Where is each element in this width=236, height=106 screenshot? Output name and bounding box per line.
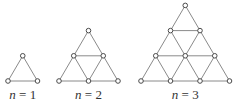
figure-canvas: n = 1n = 2n = 3 [0, 0, 236, 106]
graph-3-edge [171, 56, 186, 81]
graph-1-edge [8, 56, 23, 81]
graph-3-edge [141, 56, 156, 81]
graph-3-edge [200, 31, 215, 56]
graph-2-label: n = 2 [75, 87, 102, 102]
graph-2-vertex [86, 79, 91, 84]
graph-2-edge [74, 56, 89, 81]
graph-3-edge [156, 31, 171, 56]
graph-2-vertex [71, 54, 76, 59]
graph-1-vertex [35, 79, 40, 84]
graph-3-edge [185, 5, 200, 30]
graph-3-vertex [227, 79, 232, 84]
graph-3-vertex [139, 79, 144, 84]
graph-2-edge [89, 56, 104, 81]
graph-3-edge [156, 56, 171, 81]
graph-3-label: n = 3 [172, 87, 199, 102]
graph-2-edge [59, 56, 74, 81]
triangular-graphs-figure: n = 1n = 2n = 3 [0, 0, 236, 106]
graph-3-edge [171, 31, 186, 56]
graph-3-vertex [198, 28, 203, 33]
graph-3-vertex [183, 54, 188, 59]
graph-3-vertex [168, 28, 173, 33]
graph-3-edge [215, 56, 230, 81]
graph-3-edge [185, 31, 200, 56]
graph-3-edge [171, 5, 186, 30]
graph-2-edge [103, 56, 118, 81]
graph-1-vertex [6, 79, 11, 84]
graph-3-vertex [183, 3, 188, 8]
graph-3-vertex [198, 79, 203, 84]
graph-3-vertex [168, 79, 173, 84]
graph-1-label: n = 1 [9, 87, 36, 102]
graph-1-edge [23, 56, 38, 81]
graph-3-vertex [212, 54, 217, 59]
graph-2-vertex [101, 54, 106, 59]
graph-3-vertex [153, 54, 158, 59]
graph-3-edge [200, 56, 215, 81]
graph-2-vertex [116, 79, 121, 84]
graph-3-edge [185, 56, 200, 81]
graph-2-edge [89, 31, 104, 56]
graph-2-edge [74, 31, 89, 56]
graph-1-vertex [20, 54, 25, 59]
graph-2-vertex [86, 28, 91, 33]
graph-2-vertex [57, 79, 62, 84]
